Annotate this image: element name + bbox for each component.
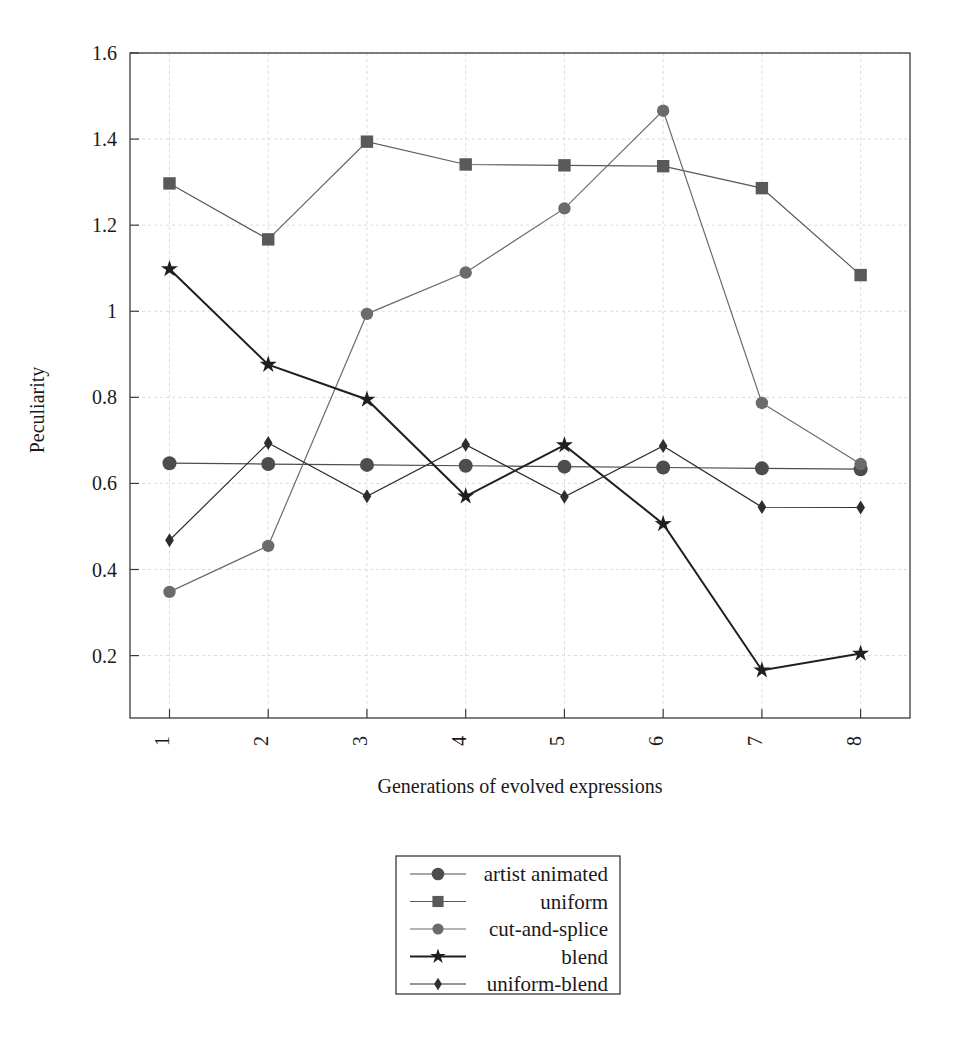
data-point-square: [756, 182, 768, 194]
legend-label: cut-and-splice: [489, 917, 608, 941]
data-point-circle-large: [459, 459, 473, 473]
y-axis-label: Peculiarity: [26, 367, 49, 454]
y-tick-label: 1: [107, 300, 117, 322]
x-tick-label: 6: [645, 736, 667, 746]
y-tick-label: 1.6: [92, 42, 117, 64]
data-point-square: [657, 160, 669, 172]
y-tick-label: 0.2: [92, 645, 117, 667]
x-tick-label: 8: [843, 736, 865, 746]
data-point-square: [854, 269, 866, 281]
x-tick-label: 3: [349, 736, 371, 746]
x-axis-label: Generations of evolved expressions: [378, 775, 663, 798]
data-point-circle: [262, 540, 274, 552]
data-point-square: [163, 177, 175, 189]
y-tick-label: 1.4: [92, 128, 117, 150]
data-point-circle: [756, 397, 768, 409]
data-point-square: [459, 158, 471, 170]
data-point-square: [361, 135, 373, 147]
legend-label: uniform: [540, 890, 608, 914]
data-point-circle-large: [432, 868, 445, 881]
data-point-circle: [361, 308, 373, 320]
data-point-circle-large: [755, 461, 769, 475]
legend-label: uniform-blend: [487, 972, 609, 996]
data-point-circle: [558, 202, 570, 214]
data-point-square: [558, 159, 570, 171]
legend-label: artist animated: [484, 862, 609, 886]
y-tick-label: 0.6: [92, 472, 117, 494]
data-point-square: [262, 233, 274, 245]
data-point-circle: [657, 104, 669, 116]
x-tick-label: 2: [250, 736, 272, 746]
data-point-circle: [459, 266, 471, 278]
peculiarity-line-chart: 0.20.40.60.811.21.41.6 12345678 Peculiar…: [0, 0, 966, 1058]
x-tick-label: 4: [448, 736, 470, 746]
data-point-square: [432, 896, 443, 907]
legend-label: blend: [561, 945, 608, 969]
data-point-circle: [163, 586, 175, 598]
y-tick-label: 0.8: [92, 386, 117, 408]
x-tick-label: 5: [546, 736, 568, 746]
chart-legend: artist animateduniformcut-and-spliceblen…: [396, 856, 620, 996]
data-point-circle-large: [360, 458, 374, 472]
y-tick-label: 1.2: [92, 214, 117, 236]
plot-background: [130, 53, 910, 718]
data-point-circle-large: [557, 460, 571, 474]
data-point-circle-large: [162, 456, 176, 470]
data-point-circle-large: [261, 457, 275, 471]
data-point-circle-large: [656, 460, 670, 474]
y-tick-label: 0.4: [92, 559, 117, 581]
x-tick-label: 1: [151, 736, 173, 746]
data-point-circle: [432, 923, 443, 934]
x-tick-label: 7: [744, 736, 766, 746]
data-point-circle: [854, 458, 866, 470]
